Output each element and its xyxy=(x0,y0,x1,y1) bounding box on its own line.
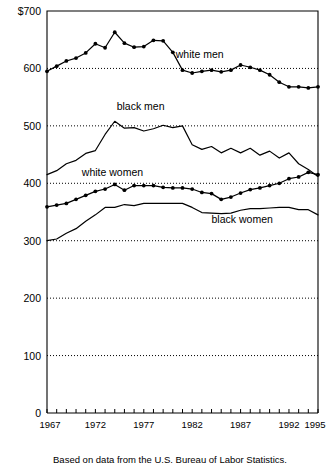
x-axis-ticks xyxy=(47,409,318,413)
data-point xyxy=(123,188,127,192)
data-point xyxy=(248,188,252,192)
data-point xyxy=(277,181,281,185)
x-tick-label-1977: 1977 xyxy=(133,419,154,430)
data-point xyxy=(210,192,214,196)
series-white-men xyxy=(45,30,320,90)
x-tick-label-1972: 1972 xyxy=(85,419,106,430)
x-tick-label-1995: 1995 xyxy=(304,419,325,430)
data-point xyxy=(93,189,97,193)
data-point xyxy=(55,203,59,207)
data-point xyxy=(229,68,233,72)
data-point xyxy=(190,187,194,191)
series-label-black-women: black women xyxy=(212,213,273,225)
data-point xyxy=(229,195,233,199)
x-axis-tick-labels: 1967197219771982198719921995 xyxy=(39,419,325,430)
data-point xyxy=(161,185,165,189)
data-point xyxy=(219,70,223,74)
series-label-white-women: white women xyxy=(81,166,143,178)
data-point xyxy=(84,193,88,197)
data-point xyxy=(152,38,156,42)
data-point xyxy=(316,173,320,177)
data-point xyxy=(152,184,156,188)
data-point xyxy=(181,68,185,72)
data-point xyxy=(248,65,252,69)
data-point xyxy=(132,45,136,49)
data-point xyxy=(113,183,117,187)
y-tick-label-100: 100 xyxy=(23,350,41,362)
data-point xyxy=(142,184,146,188)
data-point xyxy=(84,51,88,55)
data-point xyxy=(113,30,117,34)
data-point xyxy=(200,191,204,195)
series-label-white-men: white men xyxy=(175,48,224,60)
data-point xyxy=(103,46,107,50)
data-series xyxy=(45,30,320,240)
y-tick-label-400: 400 xyxy=(23,177,41,189)
data-point xyxy=(64,59,68,63)
data-point xyxy=(306,170,310,174)
data-point xyxy=(161,39,165,43)
y-tick-label-600: 600 xyxy=(23,62,41,74)
data-point xyxy=(316,85,320,89)
y-tick-label-700: $700 xyxy=(18,5,42,17)
data-point xyxy=(219,197,223,201)
data-point xyxy=(74,56,78,60)
y-axis-tick-labels: 0100200300400500600$700 xyxy=(18,5,42,419)
x-tick-label-1992: 1992 xyxy=(278,419,299,430)
data-point xyxy=(142,45,146,49)
data-point xyxy=(45,69,49,73)
data-point xyxy=(297,85,301,89)
data-point xyxy=(239,63,243,67)
series-label-black-men: black men xyxy=(117,100,165,112)
data-point xyxy=(103,187,107,191)
data-point xyxy=(181,186,185,190)
data-point xyxy=(55,64,59,68)
series-line-black-women xyxy=(47,203,318,240)
y-tick-label-500: 500 xyxy=(23,120,41,132)
data-point xyxy=(132,184,136,188)
data-point xyxy=(93,42,97,46)
chart-container: 0100200300400500600$700 1967197219771982… xyxy=(0,0,334,470)
data-point xyxy=(200,69,204,73)
data-point xyxy=(287,85,291,89)
data-point xyxy=(171,186,175,190)
data-point xyxy=(45,205,49,209)
gridlines xyxy=(47,68,318,355)
data-point xyxy=(277,80,281,84)
data-point xyxy=(258,68,262,72)
data-point xyxy=(171,50,175,54)
y-tick-label-300: 300 xyxy=(23,235,41,247)
y-tick-label-200: 200 xyxy=(23,292,41,304)
series-black-women xyxy=(47,203,318,240)
data-point xyxy=(64,201,68,205)
data-point xyxy=(258,186,262,190)
data-point xyxy=(74,197,78,201)
data-point xyxy=(287,177,291,181)
data-point xyxy=(297,175,301,179)
source-note: Based on data from the U.S. Bureau of La… xyxy=(53,454,287,465)
data-point xyxy=(123,41,127,45)
data-point xyxy=(306,86,310,90)
x-tick-label-1967: 1967 xyxy=(39,419,60,430)
x-tick-label-1982: 1982 xyxy=(182,419,203,430)
data-point xyxy=(210,68,214,72)
line-chart: 0100200300400500600$700 1967197219771982… xyxy=(0,0,334,470)
y-tick-label-0: 0 xyxy=(35,407,41,419)
data-point xyxy=(268,73,272,77)
data-point xyxy=(239,191,243,195)
series-line-white-men xyxy=(47,32,318,88)
series-annotations: white menblack menwhite womenblack women xyxy=(81,48,273,225)
x-tick-label-1987: 1987 xyxy=(230,419,251,430)
data-point xyxy=(190,71,194,75)
data-point xyxy=(268,184,272,188)
